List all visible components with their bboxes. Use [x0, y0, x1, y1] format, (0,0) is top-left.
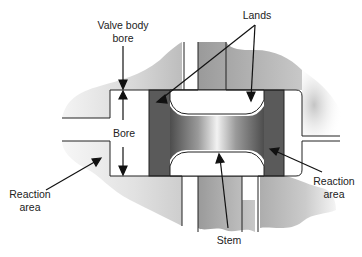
label-reaction-area-right-1: Reaction — [313, 175, 355, 187]
label-valve-body-bore-1: Valve body — [97, 19, 149, 31]
land-right — [264, 90, 284, 176]
label-stem: Stem — [217, 234, 242, 246]
label-reaction-area-left-2: area — [19, 201, 40, 213]
spool-valve-diagram: Valve body bore Lands Bore Reaction area… — [0, 0, 362, 257]
label-valve-body-bore-2: bore — [112, 32, 133, 44]
label-reaction-area-left-1: Reaction — [9, 188, 51, 200]
label-bore: Bore — [113, 127, 135, 139]
label-reaction-area-right-2: area — [323, 188, 344, 200]
label-lands: Lands — [243, 9, 272, 21]
